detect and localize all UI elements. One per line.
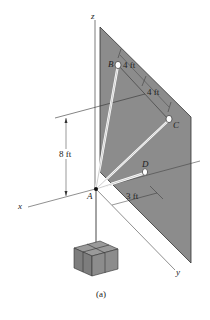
ring-c	[166, 115, 172, 122]
y-axis-label: y	[176, 268, 180, 277]
statics-diagram: z x y B C D A 8 ft 4 ft 4 ft 3 ft (a)	[0, 0, 210, 320]
point-c-label: C	[173, 121, 179, 130]
point-d-label: D	[142, 160, 149, 169]
dim-3ft-label: 3 ft	[126, 192, 138, 201]
point-a-label: A	[87, 192, 93, 201]
figure-caption: (a)	[96, 290, 106, 299]
dim-8ft-label: 8 ft	[59, 150, 71, 159]
ring-d	[142, 169, 147, 176]
point-a	[94, 187, 98, 191]
box	[74, 241, 118, 276]
ring-b	[115, 61, 121, 68]
x-axis-label: x	[18, 202, 22, 211]
z-axis-label: z	[91, 12, 95, 21]
point-b-label: B	[108, 60, 114, 69]
dim-4ft-2-label: 4 ft	[147, 88, 159, 97]
dim-4ft-1-label: 4 ft	[123, 61, 135, 70]
